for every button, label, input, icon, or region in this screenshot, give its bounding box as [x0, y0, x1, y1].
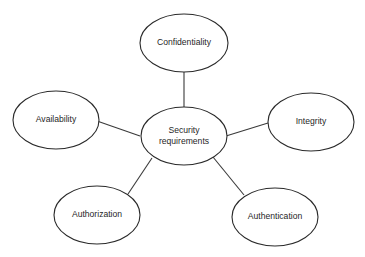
node-label: Authentication	[248, 211, 303, 221]
node-availability: Availability	[13, 91, 99, 149]
edge-integrity	[226, 123, 268, 136]
node-confidentiality: Confidentiality	[140, 14, 228, 72]
node-label: Integrity	[296, 116, 327, 126]
security-requirements-diagram: Security requirements Confidentiality In…	[0, 0, 365, 257]
node-authentication: Authentication	[232, 188, 318, 246]
node-label-line1: Security	[168, 125, 200, 135]
node-label: Availability	[36, 114, 77, 124]
node-integrity: Integrity	[268, 93, 354, 151]
edge-authorization	[128, 158, 152, 194]
node-authorization: Authorization	[54, 186, 140, 244]
node-label-line2: requirements	[159, 136, 209, 146]
edge-authentication	[213, 157, 244, 195]
node-label: Authorization	[72, 209, 122, 219]
node-security-requirements: Security requirements	[141, 107, 227, 165]
node-label: Confidentiality	[157, 37, 212, 47]
edge-availability	[97, 121, 140, 136]
